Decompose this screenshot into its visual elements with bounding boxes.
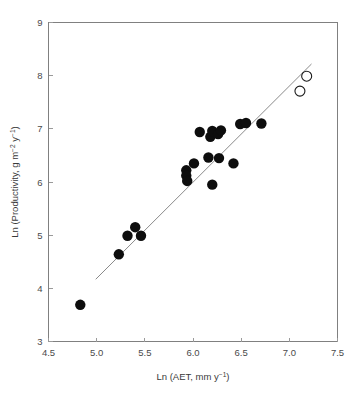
data-point-filled: [189, 158, 199, 168]
x-tick-label: 5.0: [90, 347, 103, 358]
x-label-tail: ): [226, 371, 229, 382]
x-tick-label: 7.5: [331, 347, 344, 358]
scatter-plot-figure: 4.55.05.56.06.57.07.5 3456789 Ln (AET, m…: [0, 0, 355, 394]
regression-fit-line: [96, 64, 312, 279]
x-axis-title: Ln (AET, mm y−1): [157, 371, 230, 382]
y-tick-label: 8: [37, 70, 42, 81]
y-tick-label: 4: [37, 283, 42, 294]
data-point-open: [302, 71, 312, 81]
data-point-filled: [130, 222, 140, 232]
data-point-filled: [228, 158, 238, 168]
y-tick-label: 3: [37, 336, 42, 347]
x-tick-label: 6.0: [186, 347, 199, 358]
data-point-filled: [207, 179, 217, 189]
data-point-filled: [114, 249, 124, 259]
data-point-filled: [182, 176, 192, 186]
data-point-filled: [256, 118, 266, 128]
data-point-filled: [195, 127, 205, 137]
plot-canvas: 4.55.05.56.06.57.07.5 3456789 Ln (AET, m…: [0, 0, 355, 394]
data-points: [75, 71, 312, 310]
x-tick-label: 7.0: [283, 347, 296, 358]
x-axis-ticks: 4.55.05.56.06.57.07.5: [42, 338, 344, 358]
y-axis-title: Ln (Productivity, g m−2 y−1): [9, 126, 20, 238]
data-point-filled: [214, 153, 224, 163]
y-tick-label: 6: [37, 177, 42, 188]
data-point-open: [295, 86, 305, 96]
y-label-tail: ): [9, 126, 20, 129]
x-tick-label: 6.5: [235, 347, 248, 358]
x-tick-label: 4.5: [42, 347, 55, 358]
data-point-filled: [203, 152, 213, 162]
data-point-filled: [122, 230, 132, 240]
regression-line: [96, 64, 312, 279]
y-tick-label: 9: [37, 17, 42, 28]
y-tick-label: 7: [37, 123, 42, 134]
y-tick-label: 5: [37, 230, 42, 241]
x-tick-label: 5.5: [138, 347, 151, 358]
data-point-filled: [75, 300, 85, 310]
data-point-filled: [216, 125, 226, 135]
y-axis-ticks: 3456789: [37, 17, 52, 347]
data-point-filled: [241, 118, 251, 128]
data-point-filled: [136, 230, 146, 240]
